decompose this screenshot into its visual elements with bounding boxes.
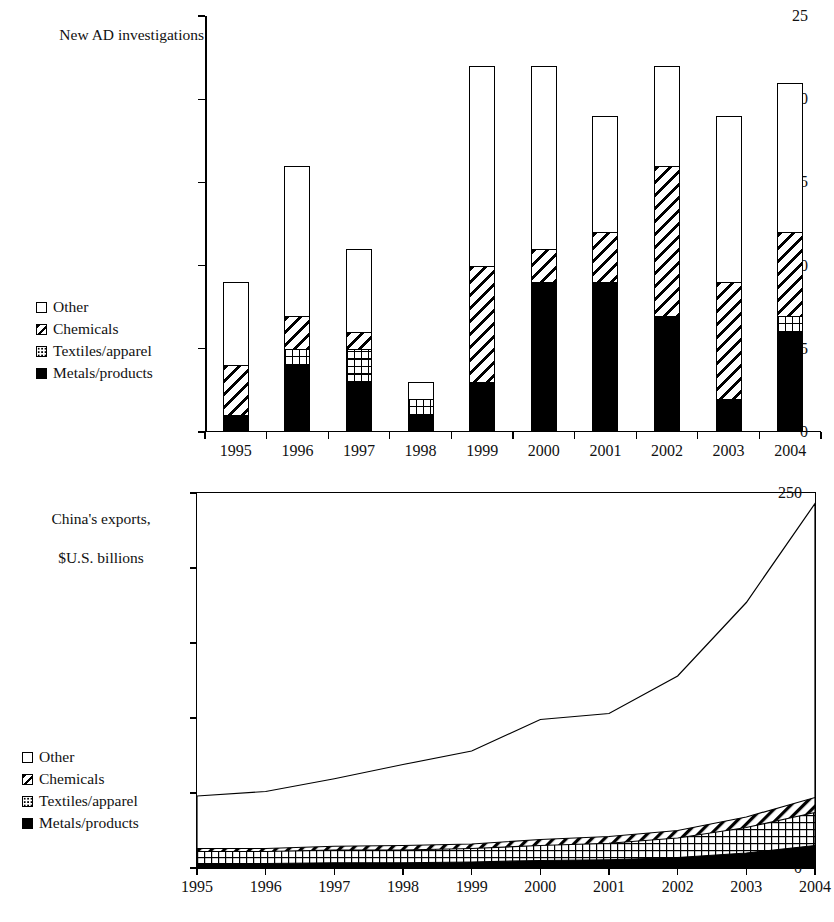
legend-swatch-chemicals-icon — [36, 324, 47, 335]
legend-label-other: Other — [39, 748, 74, 766]
x-tick-label-1995: 1995 — [181, 878, 213, 896]
bar-segment-2000-other — [531, 66, 557, 249]
area-chart-legend: Other Chemicals Textiles/apparel Metals/… — [22, 746, 139, 834]
bar-segment-1995-chemicals — [223, 365, 249, 415]
bar-segment-2001-chemicals — [592, 232, 618, 282]
bar-group-1997[interactable] — [346, 16, 372, 432]
bar-segment-2004-other — [777, 83, 803, 233]
x-tick-label-2003: 2003 — [713, 442, 745, 460]
bar-segment-1997-chemicals — [346, 332, 372, 349]
bar-segment-1999-chemicals — [469, 266, 495, 382]
bar-segment-1996-chemicals — [284, 316, 310, 349]
y-tick — [198, 265, 205, 266]
area-title-line2: $U.S. billions — [8, 548, 194, 567]
y-tick — [198, 99, 205, 100]
legend-swatch-other-icon — [22, 752, 33, 763]
bar-segment-1996-other — [284, 166, 310, 316]
area-chart-y-axis-title: China's exports, $U.S. billions — [8, 490, 194, 587]
x-tick-label-1999: 1999 — [466, 442, 498, 460]
x-tick-label-2002: 2002 — [662, 878, 694, 896]
bar-group-2000[interactable] — [531, 16, 557, 432]
y-tick — [190, 792, 197, 793]
bar-group-2004[interactable] — [777, 16, 803, 432]
x-tick-label-2001: 2001 — [589, 442, 621, 460]
y-tick — [190, 717, 197, 718]
y-tick — [198, 15, 205, 16]
x-tick-label-2003: 2003 — [730, 878, 762, 896]
bar-group-2002[interactable] — [654, 16, 680, 432]
bar-segment-2001-other — [592, 116, 618, 232]
x-tick-label-1996: 1996 — [250, 878, 282, 896]
x-tick — [266, 432, 267, 439]
bar-segment-1997-textiles-apparel — [346, 349, 372, 382]
x-tick-label-2002: 2002 — [651, 442, 683, 460]
legend-item-metals: Metals/products — [22, 812, 139, 834]
x-tick — [389, 432, 390, 439]
bar-chart-legend: Other Chemicals Textiles/apparel Metals/… — [36, 296, 153, 384]
x-tick — [820, 432, 821, 439]
legend-label-other: Other — [53, 298, 88, 316]
legend-label-textiles: Textiles/apparel — [53, 342, 152, 360]
bar-chart-plot-area: 0510152025 19951996199719981999200020012… — [205, 16, 821, 432]
x-tick-label-1998: 1998 — [387, 878, 419, 896]
bar-segment-2003-other — [716, 116, 742, 282]
bar-chart-panel: New AD investigations Other Chemicals Te… — [0, 0, 834, 470]
bar-group-1998[interactable] — [408, 16, 434, 432]
bar-segment-1998-textiles-apparel — [408, 399, 434, 416]
x-tick — [204, 432, 205, 439]
bar-group-1996[interactable] — [284, 16, 310, 432]
legend-label-textiles: Textiles/apparel — [39, 792, 138, 810]
x-tick — [471, 868, 472, 875]
x-tick-label-1999: 1999 — [456, 878, 488, 896]
x-tick — [540, 868, 541, 875]
legend-label-metals: Metals/products — [53, 364, 153, 382]
x-tick — [328, 432, 329, 439]
x-tick — [265, 868, 266, 875]
bar-segment-1999-metals-products — [469, 382, 495, 432]
legend-item-textiles: Textiles/apparel — [36, 340, 153, 362]
bar-segment-1996-metals-products — [284, 365, 310, 432]
y-tick — [190, 492, 197, 493]
area-chart-panel: China's exports, $U.S. billions Other Ch… — [0, 470, 834, 922]
x-tick-label-2001: 2001 — [593, 878, 625, 896]
legend-swatch-textiles-icon — [36, 346, 47, 357]
bar-segment-2001-metals-products — [592, 282, 618, 432]
x-tick-label-1996: 1996 — [281, 442, 313, 460]
bar-segment-2004-chemicals — [777, 232, 803, 315]
x-tick-label-2000: 2000 — [528, 442, 560, 460]
legend-item-chemicals: Chemicals — [22, 768, 139, 790]
bar-segment-2003-metals-products — [716, 399, 742, 432]
bar-segment-1999-other — [469, 66, 495, 266]
bar-chart-y-axis-title: New AD investigations — [8, 6, 204, 45]
x-tick — [759, 432, 760, 439]
bar-segment-1996-textiles-apparel — [284, 349, 310, 366]
bar-group-2001[interactable] — [592, 16, 618, 432]
area-layer-other — [197, 504, 815, 869]
bar-segment-2000-metals-products — [531, 282, 557, 432]
legend-item-chemicals: Chemicals — [36, 318, 153, 340]
legend-label-chemicals: Chemicals — [39, 770, 104, 788]
area-chart-series-svg — [197, 493, 815, 868]
legend-swatch-metals-icon — [36, 368, 47, 379]
x-tick-label-1998: 1998 — [405, 442, 437, 460]
x-tick-label-1995: 1995 — [220, 442, 252, 460]
y-tick — [190, 567, 197, 568]
y-tick — [190, 642, 197, 643]
x-tick — [196, 868, 197, 875]
bar-group-1999[interactable] — [469, 16, 495, 432]
x-tick — [402, 868, 403, 875]
bar-group-2003[interactable] — [716, 16, 742, 432]
x-tick — [814, 868, 815, 875]
legend-swatch-chemicals-icon — [22, 774, 33, 785]
bar-group-1995[interactable] — [223, 16, 249, 432]
x-tick — [608, 868, 609, 875]
area-title-line1: China's exports, — [8, 509, 194, 528]
legend-swatch-metals-icon — [22, 818, 33, 829]
bar-segment-2002-chemicals — [654, 166, 680, 316]
bar-segment-1997-metals-products — [346, 382, 372, 432]
y-tick — [198, 182, 205, 183]
x-tick — [746, 868, 747, 875]
x-tick-label-2000: 2000 — [524, 878, 556, 896]
bar-segment-2002-other — [654, 66, 680, 166]
x-tick — [451, 432, 452, 439]
